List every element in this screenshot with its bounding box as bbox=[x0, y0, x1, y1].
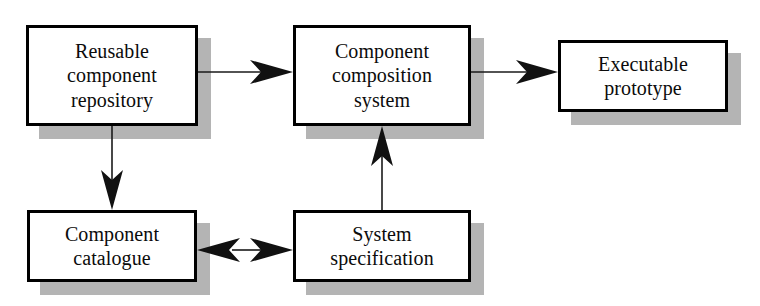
node-label-component-catalogue: Component catalogue bbox=[59, 222, 165, 271]
node-system-specification[interactable]: System specification bbox=[293, 210, 471, 282]
node-label-executable-prototype: Executable prototype bbox=[592, 52, 694, 101]
edge-repository-to-composition bbox=[198, 60, 293, 84]
node-label-system-specification: System specification bbox=[324, 222, 439, 271]
node-component-composition-system[interactable]: Component composition system bbox=[293, 25, 471, 126]
node-reusable-component-repository[interactable]: Reusable component repository bbox=[26, 25, 198, 126]
node-label-component-composition-system: Component composition system bbox=[326, 39, 438, 112]
node-executable-prototype[interactable]: Executable prototype bbox=[558, 40, 728, 112]
diagram-canvas: Reusable component repository Component … bbox=[0, 0, 760, 306]
edge-composition-to-prototype bbox=[471, 60, 558, 84]
node-label-reusable-component-repository: Reusable component repository bbox=[61, 39, 163, 112]
node-component-catalogue[interactable]: Component catalogue bbox=[27, 210, 197, 282]
edge-catalogue-specification-bidirectional bbox=[197, 238, 293, 262]
